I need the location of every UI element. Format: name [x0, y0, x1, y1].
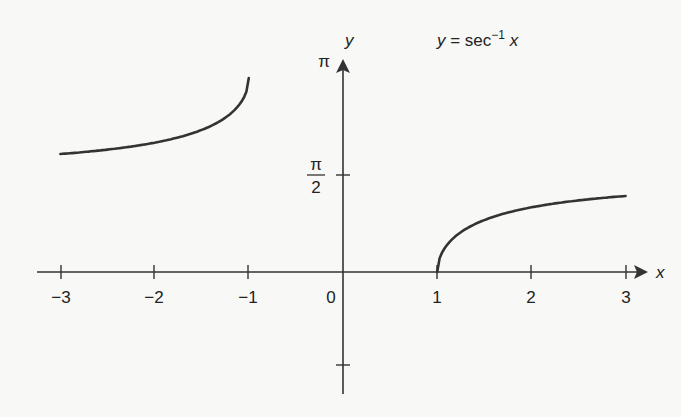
y-tick-label-pi-half-numerator: π	[310, 155, 322, 174]
curve-left	[60, 78, 248, 154]
plot-svg: −3 −2 −1 0 1 2 3 π π 2 x y y = sec−1 x	[0, 0, 681, 417]
origin-label: 0	[326, 288, 335, 307]
y-tick-label-pi-half-denominator: 2	[311, 178, 320, 197]
x-tick-label: 1	[432, 288, 441, 307]
y-axis-label: y	[344, 31, 355, 50]
x-axis-label: x	[655, 263, 665, 282]
y-tick-label-pi: π	[318, 52, 330, 71]
curve-right	[437, 196, 625, 272]
chart-title: y = sec−1 x	[436, 28, 519, 50]
x-tick-label: 2	[526, 288, 535, 307]
x-tick-label: −2	[144, 288, 163, 307]
x-tick-label: −1	[238, 288, 257, 307]
x-tick-label: −3	[51, 288, 70, 307]
chart-area: −3 −2 −1 0 1 2 3 π π 2 x y y = sec−1 x	[0, 0, 681, 417]
x-tick-label: 3	[621, 288, 630, 307]
